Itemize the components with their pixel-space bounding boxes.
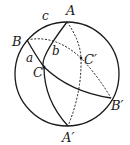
label-C-prime: C′ [84,52,97,67]
spherical-triangle-diagram: A B C A′ B′ C′ a b c [0,0,130,145]
label-C: C [33,65,43,80]
label-A: A [65,3,75,18]
vertex-C-prime-dot [80,57,83,60]
label-A-prime: A′ [61,130,74,145]
label-side-c: c [42,9,49,23]
arc-A-C-prime-A-prime-dashed [67,22,81,126]
label-B-prime: B′ [110,98,124,113]
sphere-outline [15,22,119,126]
label-side-b: b [52,44,60,58]
label-B: B [11,34,22,49]
label-side-a: a [26,51,33,65]
arc-A-C-A-prime [43,22,68,126]
